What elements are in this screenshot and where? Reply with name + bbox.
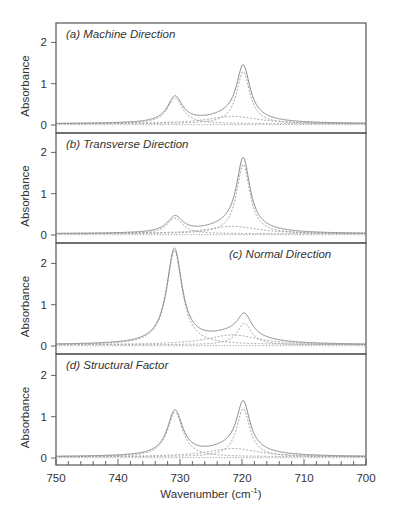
panel-label: (b) Transverse Direction <box>66 138 189 150</box>
x-tick-label: 750 <box>46 472 65 484</box>
y-axis-title: Absorbance <box>19 387 31 448</box>
x-axis-title: Wavenumber (cm-1) <box>160 486 261 500</box>
y-tick-label: 2 <box>41 257 47 269</box>
spectrum-curve <box>56 248 366 344</box>
spectrum-curve <box>56 157 366 233</box>
component-curve <box>56 251 366 345</box>
x-axis: 750740730720710700 <box>46 459 375 484</box>
y-tick-label: 0 <box>41 119 47 131</box>
x-tick-label: 700 <box>356 472 375 484</box>
panels-group: 012Absorbance(a) Machine Direction012Abs… <box>19 23 366 465</box>
y-axis-title: Absorbance <box>19 55 31 116</box>
y-tick-label: 1 <box>41 188 47 200</box>
y-tick-label: 1 <box>41 78 47 90</box>
y-tick-label: 0 <box>41 452 47 464</box>
panel-label: (c) Normal Direction <box>229 248 331 260</box>
component-curve <box>56 72 366 124</box>
y-tick-label: 2 <box>41 146 47 158</box>
y-tick-label: 0 <box>41 340 47 352</box>
component-curve <box>56 98 366 124</box>
y-axis-title: Absorbance <box>19 165 31 226</box>
x-tick-label: 720 <box>232 472 251 484</box>
component-curve <box>56 323 366 344</box>
chart-svg: 012Absorbance(a) Machine Direction012Abs… <box>0 0 395 527</box>
component-curve <box>56 409 366 457</box>
y-tick-label: 0 <box>41 229 47 241</box>
spectrum-curve <box>56 65 366 124</box>
y-tick-label: 1 <box>41 299 47 311</box>
x-tick-label: 710 <box>294 472 313 484</box>
y-tick-label: 1 <box>41 411 47 423</box>
panel-b: 012Absorbance(b) Transverse Direction <box>19 133 366 243</box>
component-curve <box>56 218 366 234</box>
x-tick-label: 730 <box>170 472 189 484</box>
y-axis-title: Absorbance <box>19 276 31 337</box>
panel-a: 012Absorbance(a) Machine Direction <box>19 23 366 133</box>
panel-c: 012Absorbance(c) Normal Direction <box>19 243 366 354</box>
panel-label: (d) Structural Factor <box>66 359 169 371</box>
y-tick-label: 2 <box>41 36 47 48</box>
spectrum-curve <box>56 401 366 457</box>
x-tick-label: 740 <box>108 472 127 484</box>
y-tick-label: 2 <box>41 369 47 381</box>
panel-label: (a) Machine Direction <box>66 28 175 40</box>
component-curve <box>56 412 366 457</box>
panel-d: 012Absorbance(d) Structural Factor <box>19 354 366 465</box>
stacked-spectra-figure: 012Absorbance(a) Machine Direction012Abs… <box>0 0 395 527</box>
